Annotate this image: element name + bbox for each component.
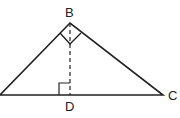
right-angle-mark-d [59, 83, 70, 95]
vertex-label-d: D [65, 100, 74, 113]
triangle-diagram [0, 0, 180, 118]
vertex-label-b: B [65, 6, 74, 19]
vertex-label-c: C [168, 89, 177, 102]
triangle-abc [0, 23, 163, 95]
